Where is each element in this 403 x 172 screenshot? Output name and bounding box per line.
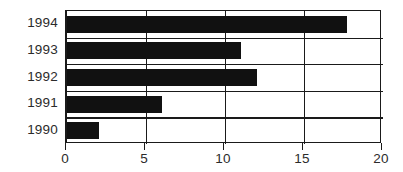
x-axis-tick: [65, 143, 66, 150]
bar-row: [67, 117, 383, 144]
x-axis-tick-label: 5: [124, 152, 164, 166]
y-axis-label: 1990: [2, 123, 58, 137]
bar-row: [67, 38, 383, 65]
plot-area: [65, 10, 381, 143]
bar-chart: 1994 1993 1992 1991 1990 05101520: [0, 0, 403, 172]
y-axis-labels: 1994 1993 1992 1991 1990: [0, 10, 58, 143]
bar-row: [67, 91, 383, 118]
x-axis-tick: [223, 143, 224, 150]
x-axis-tick-label: 20: [361, 152, 401, 166]
y-axis-label: 1991: [2, 96, 58, 110]
bar-row: [67, 64, 383, 91]
x-axis-tick-label: 0: [45, 152, 85, 166]
x-axis-tick: [381, 143, 382, 150]
bar-1994: [67, 16, 347, 33]
x-axis-tick: [302, 143, 303, 150]
y-axis-label: 1992: [2, 70, 58, 84]
x-axis-tick-label: 15: [282, 152, 322, 166]
bar-1993: [67, 42, 241, 59]
bar-1990: [67, 122, 99, 139]
y-axis-label: 1993: [2, 43, 58, 57]
x-axis-tick: [144, 143, 145, 150]
bar-1991: [67, 96, 162, 113]
x-axis-tick-label: 10: [203, 152, 243, 166]
bar-row: [67, 11, 383, 38]
y-axis-label: 1994: [2, 16, 58, 30]
bar-1992: [67, 69, 257, 86]
